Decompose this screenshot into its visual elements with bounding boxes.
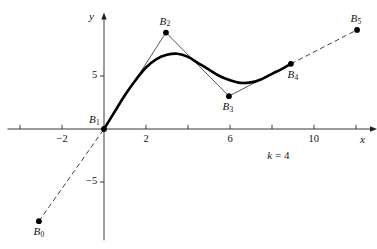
x-tick-label-2: 2	[144, 134, 149, 145]
axes-group	[7, 12, 377, 240]
control-polygon-solid	[104, 33, 291, 129]
control-point-label-B0: B0	[33, 226, 44, 238]
plot-canvas	[0, 0, 377, 249]
y-tick-label--5: −5	[86, 176, 97, 187]
control-point-dot-B3	[226, 93, 232, 99]
x-axis-arrow	[370, 126, 377, 131]
bspline-figure: −226105−5xyB0B1B2B3B4B5k = 4	[0, 0, 377, 249]
curve-series-0	[104, 54, 291, 129]
x-tick-label-10: 10	[309, 134, 320, 145]
polygon-dashed-B4-B5	[291, 30, 357, 64]
y-tick-label-5: 5	[92, 70, 97, 81]
control-point-dot-B2	[163, 30, 169, 36]
control-point-dot-B1	[101, 126, 107, 132]
k-parameter-label: k = 4	[267, 150, 289, 161]
control-point-dot-B5	[354, 27, 360, 33]
x-tick-label--2: −2	[57, 134, 68, 145]
control-point-label-B2: B2	[159, 16, 170, 28]
control-point-label-B3: B3	[222, 101, 233, 113]
polygon-solid-B2-B3	[166, 33, 229, 97]
x-tick-label-6: 6	[228, 134, 233, 145]
control-point-dot-B4	[288, 61, 294, 67]
x-axis-label: x	[360, 134, 365, 145]
y-axis-label: y	[89, 11, 94, 22]
y-axis-arrow	[101, 12, 106, 19]
bspline-curve	[104, 54, 291, 129]
control-point-dots	[36, 27, 360, 224]
control-point-label-B4: B4	[287, 69, 298, 81]
control-point-label-B5: B5	[351, 13, 362, 25]
control-polygon-dashed	[39, 30, 357, 221]
control-point-label-B1: B1	[89, 114, 100, 126]
control-point-dot-B0	[36, 218, 42, 224]
